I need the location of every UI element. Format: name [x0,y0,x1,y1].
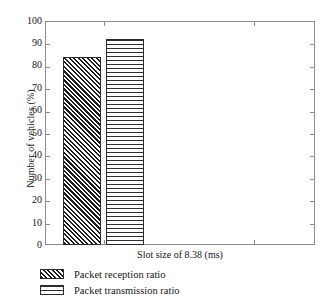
y-tick-label-100: 100 [20,16,42,26]
y-tick-label-50: 50 [20,128,42,138]
y-tick-label-20: 20 [20,195,42,205]
legend-label-packet-reception-ratio: Packet reception ratio [74,269,166,280]
legend-item-packet-transmission-ratio: Packet transmission ratio [40,282,290,298]
y-tick-label-40: 40 [20,150,42,160]
legend-swatch-diagonal-hatch-icon [40,269,64,279]
legend-item-packet-reception-ratio: Packet reception ratio [40,266,290,282]
x-axis-title: Slot size of 8.38 (ms) [45,249,315,260]
bar-chart: Number of vehicles (%) 100 90 80 70 60 5… [0,0,326,303]
legend-label-packet-transmission-ratio: Packet transmission ratio [74,285,180,296]
bar-packet-transmission-ratio [106,39,144,245]
legend-swatch-horizontal-hatch-icon [40,285,64,295]
y-tick-label-10: 10 [20,218,42,228]
y-tick-label-80: 80 [20,60,42,70]
y-tick-label-70: 70 [20,83,42,93]
bar-packet-reception-ratio [63,57,101,245]
y-axis-tick-labels: 100 90 80 70 60 50 40 30 20 10 0 [18,0,42,303]
chart-legend: Packet reception ratio Packet transmissi… [40,266,290,298]
y-tick-label-60: 60 [20,105,42,115]
y-tick-label-90: 90 [20,38,42,48]
y-tick-label-30: 30 [20,173,42,183]
bars-layer [45,21,315,245]
y-tick-label-0: 0 [20,240,42,250]
